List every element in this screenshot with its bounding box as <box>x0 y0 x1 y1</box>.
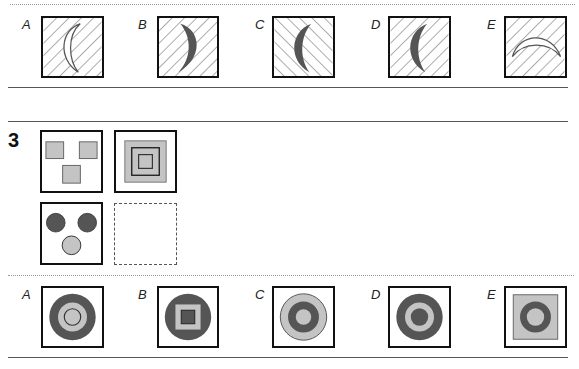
three-circles-icon <box>42 204 101 263</box>
crescent-outline-icon <box>506 18 565 76</box>
ring-circle-icon <box>43 288 102 346</box>
prev-option-e-label: E <box>487 17 496 32</box>
section-end-rule <box>8 87 568 88</box>
crescent-filled-icon <box>159 18 217 76</box>
option-e[interactable] <box>504 286 567 348</box>
options-dotted-separator <box>8 275 574 276</box>
prev-option-d-label: D <box>371 17 380 32</box>
top-dotted-separator <box>10 4 575 5</box>
grid-answer-slot <box>114 203 177 265</box>
circle-square-icon <box>159 288 217 346</box>
target-dark-outer-icon <box>390 288 449 346</box>
prev-option-a-label: A <box>22 17 31 32</box>
prev-option-c-label: C <box>255 17 264 32</box>
target-light-outer-icon <box>274 288 333 346</box>
crescent-filled-icon <box>390 18 449 76</box>
bottom-rule <box>8 357 568 358</box>
option-c[interactable] <box>272 286 335 348</box>
option-c-label: C <box>255 287 264 302</box>
grid-top-right <box>114 130 177 193</box>
prev-option-b-label: B <box>138 17 147 32</box>
option-e-label: E <box>487 287 496 302</box>
option-b[interactable] <box>157 286 219 348</box>
three-squares-icon <box>42 132 101 191</box>
section-start-rule <box>8 121 568 122</box>
option-a-label: A <box>22 287 31 302</box>
grid-bottom-left <box>40 202 103 265</box>
prev-option-a[interactable] <box>41 16 104 78</box>
nested-squares-icon <box>116 132 175 191</box>
option-d[interactable] <box>388 286 451 348</box>
crescent-outline-icon <box>43 18 102 76</box>
prev-option-e[interactable] <box>504 16 567 78</box>
prev-option-b[interactable] <box>157 16 219 78</box>
option-d-label: D <box>371 287 380 302</box>
option-a[interactable] <box>41 286 104 348</box>
prev-option-d[interactable] <box>388 16 451 78</box>
prev-option-c[interactable] <box>272 16 335 78</box>
grid-top-left <box>40 130 103 193</box>
option-b-label: B <box>138 287 147 302</box>
square-ring-icon <box>506 288 565 346</box>
crescent-filled-icon <box>274 18 333 76</box>
question-number: 3 <box>8 129 19 152</box>
